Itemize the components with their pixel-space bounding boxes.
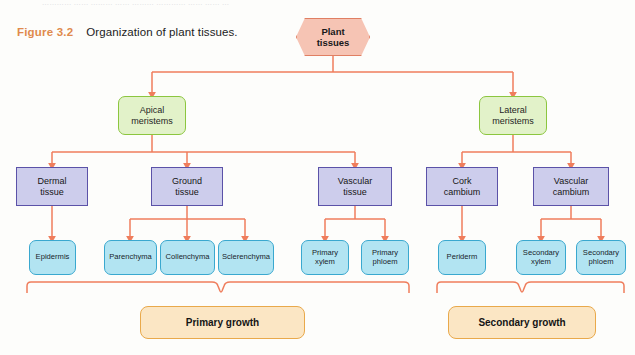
node-cork-cambium-label: Corkcambium bbox=[444, 176, 481, 197]
node-vascular-cambium-label: Vascularcambium bbox=[553, 176, 590, 197]
figure-caption: Figure 3.2Organization of plant tissues. bbox=[17, 22, 238, 40]
node-secondary-growth-label: Secondary growth bbox=[478, 317, 565, 329]
node-parenchyma-label: Parenchyma bbox=[109, 253, 152, 262]
cut-off-text-line: ………… …… ……… …… ……… ………… …… …… … bbox=[42, 0, 342, 7]
node-epidermis[interactable]: Epidermis bbox=[29, 240, 76, 275]
node-secondary-xylem-label: Secondaryxylem bbox=[523, 249, 559, 267]
node-primary-phloem[interactable]: Primaryphloem bbox=[361, 240, 409, 275]
node-primary-growth-label: Primary growth bbox=[186, 317, 259, 329]
node-collenchyma-label: Collenchyma bbox=[166, 253, 210, 262]
node-periderm-label: Periderm bbox=[447, 253, 478, 262]
node-plant-tissues[interactable]: Planttissues bbox=[296, 18, 370, 56]
node-epidermis-label: Epidermis bbox=[36, 253, 70, 262]
node-parenchyma[interactable]: Parenchyma bbox=[104, 240, 157, 275]
node-secondary-phloem-label: Secondaryphloem bbox=[583, 249, 619, 267]
node-primary-phloem-label: Primaryphloem bbox=[372, 249, 398, 267]
node-plant-tissues-label: Planttissues bbox=[317, 26, 350, 49]
node-ground-tissue-label: Groundtissue bbox=[172, 176, 202, 197]
node-sclerenchyma[interactable]: Sclerenchyma bbox=[218, 240, 274, 275]
node-primary-growth[interactable]: Primary growth bbox=[140, 306, 305, 339]
node-secondary-xylem[interactable]: Secondaryxylem bbox=[516, 240, 566, 275]
node-cork-cambium[interactable]: Corkcambium bbox=[426, 167, 498, 206]
node-sclerenchyma-label: Sclerenchyma bbox=[222, 253, 270, 262]
node-vascular-tissue[interactable]: Vasculartissue bbox=[318, 167, 392, 206]
node-primary-xylem[interactable]: Primaryxylem bbox=[301, 240, 349, 275]
node-lateral-meristems[interactable]: Lateralmeristems bbox=[479, 96, 547, 135]
node-ground-tissue[interactable]: Groundtissue bbox=[151, 167, 223, 206]
node-dermal-tissue-label: Dermaltissue bbox=[37, 176, 66, 197]
figure-page: ………… …… ……… …… ……… ………… …… …… … Figure 3… bbox=[0, 0, 635, 355]
node-primary-xylem-label: Primaryxylem bbox=[312, 249, 338, 267]
node-secondary-growth[interactable]: Secondary growth bbox=[448, 306, 596, 339]
node-apical-meristems-label: Apicalmeristems bbox=[131, 105, 173, 126]
node-periderm[interactable]: Periderm bbox=[438, 240, 486, 275]
figure-caption-text: Organization of plant tissues. bbox=[86, 26, 237, 38]
node-apical-meristems[interactable]: Apicalmeristems bbox=[118, 96, 186, 135]
figure-number: Figure 3.2 bbox=[17, 26, 73, 38]
node-collenchyma[interactable]: Collenchyma bbox=[160, 240, 215, 275]
node-vascular-cambium[interactable]: Vascularcambium bbox=[533, 167, 609, 206]
node-lateral-meristems-label: Lateralmeristems bbox=[492, 105, 534, 126]
node-dermal-tissue[interactable]: Dermaltissue bbox=[16, 167, 88, 206]
node-vascular-tissue-label: Vasculartissue bbox=[338, 176, 372, 197]
node-secondary-phloem[interactable]: Secondaryphloem bbox=[576, 240, 626, 275]
